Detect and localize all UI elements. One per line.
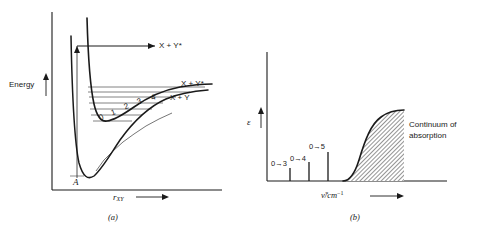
ground-asymptote-label: X + Y (170, 93, 190, 102)
upper-arrow-product-label: X + Y* (159, 41, 182, 50)
continuum-hatched-region (343, 110, 404, 181)
r-axis-label: rXY (113, 192, 124, 203)
wavenumber-axis-label-base: ν̃/cm (321, 190, 337, 200)
r-axis-label-subscript: XY (117, 196, 124, 202)
excited-asymptote-label: X + Y* (181, 79, 204, 88)
r-axis-arrow-head (162, 194, 169, 200)
wavenumber-axis-arrow-head (397, 193, 404, 199)
wavenumber-axis-label: ν̃/cm−1 (321, 190, 343, 200)
well-minimum-label: A (73, 177, 79, 187)
dissociation-arrow-head (148, 43, 155, 49)
figure-photodissociation: Energy rXY A X + Y* X + Y* X + Y 0 1 2 3… (0, 0, 478, 236)
panel-a-potential-curves: Energy rXY A X + Y* X + Y* X + Y 0 1 2 3… (0, 0, 239, 236)
wavenumber-axis-label-superscript: −1 (337, 190, 343, 196)
panel-b-caption: (b) (350, 212, 360, 222)
excitation-arrow-head (74, 46, 80, 53)
epsilon-axis-arrow-head (258, 107, 264, 114)
transition-label-0-4: 0→4 (290, 155, 306, 164)
panel-b-plot (239, 0, 478, 236)
transition-label-0-5: 0→5 (309, 143, 325, 152)
epsilon-axis-label: ε (247, 117, 251, 127)
ground-state-potential-curve (71, 36, 208, 178)
panel-a-caption: (a) (108, 212, 118, 222)
energy-axis-arrow-head (43, 73, 49, 80)
continuum-label-line1: Continuum of (409, 120, 457, 129)
panel-b-absorption-spectrum: ε ν̃/cm−1 0→3 0→4 0→5 Continuum of absor… (239, 0, 478, 236)
energy-axis-label: Energy (9, 80, 34, 89)
excited-state-potential-curve (87, 18, 212, 121)
continuum-label-line2: absorption (409, 131, 446, 140)
transition-label-0-3: 0→3 (271, 160, 287, 169)
